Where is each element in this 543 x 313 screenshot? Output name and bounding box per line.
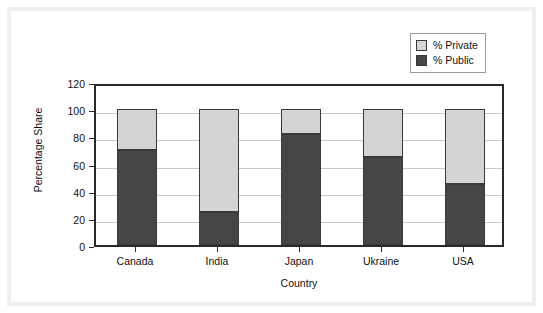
bar-stack[interactable]: [363, 82, 403, 245]
legend-swatch-private: [416, 40, 427, 51]
bar-stack[interactable]: [117, 82, 157, 245]
bar-segment-public[interactable]: [281, 134, 321, 245]
y-tick-mark: [89, 247, 94, 248]
stacked-bar-chart: % Private % Public Percentage Share 0204…: [11, 11, 540, 310]
y-tick-label: 100: [59, 106, 85, 117]
x-tick-label: Japan: [285, 255, 314, 267]
y-tick-label: 80: [59, 133, 85, 144]
bar-segment-private[interactable]: [117, 109, 157, 150]
y-tick-label: 40: [59, 187, 85, 198]
bar-segment-private[interactable]: [199, 109, 239, 212]
y-tick-label: 20: [59, 214, 85, 225]
bar-stack[interactable]: [199, 82, 239, 245]
plot-area: [94, 84, 504, 247]
x-tick-mark: [135, 247, 136, 252]
legend-swatch-public: [416, 55, 427, 66]
legend-item-private: % Private: [416, 38, 478, 53]
y-tick-label: 60: [59, 160, 85, 171]
legend-item-public: % Public: [416, 53, 478, 68]
y-axis-title: Percentage Share: [32, 95, 44, 205]
x-tick-label: Ukraine: [363, 255, 399, 267]
chart-legend: % Private % Public: [410, 33, 486, 73]
x-tick-mark: [463, 247, 464, 252]
x-tick-label: India: [206, 255, 229, 267]
bar-segment-public[interactable]: [117, 150, 157, 245]
y-tick-label: 120: [59, 79, 85, 90]
bar-segment-private[interactable]: [281, 109, 321, 133]
x-tick-label: USA: [452, 255, 474, 267]
x-tick-mark: [299, 247, 300, 252]
legend-label-public: % Public: [433, 55, 474, 66]
legend-label-private: % Private: [433, 40, 478, 51]
bar-stack[interactable]: [281, 82, 321, 245]
bar-segment-private[interactable]: [363, 109, 403, 157]
y-tick-label: 0: [59, 242, 85, 253]
figure-frame: % Private % Public Percentage Share 0204…: [7, 7, 536, 306]
bar-segment-public[interactable]: [363, 157, 403, 245]
bar-segment-public[interactable]: [199, 212, 239, 245]
bar-segment-public[interactable]: [445, 184, 485, 245]
x-axis-title: Country: [94, 277, 504, 289]
x-tick-mark: [217, 247, 218, 252]
x-tick-mark: [381, 247, 382, 252]
bar-stack[interactable]: [445, 82, 485, 245]
bar-segment-private[interactable]: [445, 109, 485, 184]
x-tick-label: Canada: [117, 255, 154, 267]
